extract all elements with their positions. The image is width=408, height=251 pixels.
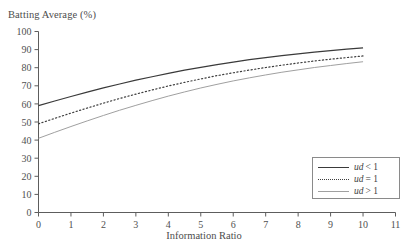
legend-item: ud = 1 — [318, 173, 394, 185]
legend-item: ud > 1 — [318, 185, 394, 197]
x-axis: 01234567891011 — [36, 213, 400, 230]
legend-relation: < 1 — [365, 162, 377, 172]
x-tick-label: 1 — [68, 219, 73, 230]
x-axis-title: Information Ratio — [0, 230, 408, 241]
y-tick-label: 30 — [22, 153, 32, 164]
x-tick-label: 11 — [391, 219, 401, 230]
legend-line-swatch-solid-dark — [318, 163, 349, 172]
legend-line-swatch-dotted — [318, 175, 349, 184]
data-series — [39, 48, 364, 138]
legend-variable: ud — [354, 162, 364, 172]
legend-relation: = 1 — [365, 174, 377, 184]
legend-item-label: ud = 1 — [354, 174, 378, 184]
x-tick-label: 0 — [36, 219, 41, 230]
series-line — [39, 48, 364, 106]
legend-item-label: ud < 1 — [354, 162, 378, 172]
y-tick-label: 20 — [22, 171, 32, 182]
legend-item-label: ud > 1 — [354, 186, 378, 196]
y-tick-label: 100 — [17, 26, 32, 37]
legend-variable: ud — [354, 186, 364, 196]
y-tick-label: 90 — [22, 44, 32, 55]
x-tick-label: 8 — [296, 219, 301, 230]
legend: ud < 1 ud = 1 ud > 1 — [312, 157, 400, 199]
legend-item: ud < 1 — [318, 161, 394, 173]
y-tick-label: 70 — [22, 80, 32, 91]
legend-variable: ud — [354, 174, 364, 184]
chart-figure: Batting Average (%) 01020304050607080901… — [0, 0, 408, 251]
x-tick-label: 5 — [198, 219, 203, 230]
x-tick-label: 10 — [358, 219, 368, 230]
y-tick-label: 60 — [22, 99, 32, 110]
x-tick-label: 6 — [231, 219, 236, 230]
series-line — [39, 56, 364, 124]
legend-relation: > 1 — [365, 186, 377, 196]
x-tick-label: 9 — [328, 219, 333, 230]
x-tick-label: 7 — [263, 219, 268, 230]
y-tick-label: 10 — [22, 189, 32, 200]
legend-line-swatch-solid-light — [318, 187, 349, 196]
y-tick-label: 80 — [22, 62, 32, 73]
y-tick-label: 40 — [22, 135, 32, 146]
x-tick-label: 2 — [101, 219, 106, 230]
x-tick-label: 3 — [133, 219, 138, 230]
y-tick-label: 50 — [22, 117, 32, 128]
y-axis: 0102030405060708090100 — [17, 26, 39, 218]
series-line — [39, 62, 364, 139]
y-tick-label: 0 — [27, 207, 32, 218]
x-tick-label: 4 — [166, 219, 171, 230]
plot-area: 0102030405060708090100 01234567891011 — [0, 0, 408, 251]
